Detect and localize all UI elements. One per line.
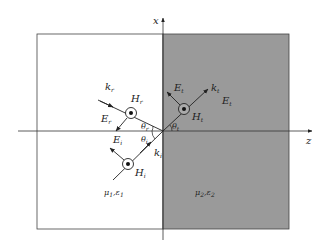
medium-2-region xyxy=(163,34,289,229)
medium-1-region xyxy=(37,34,163,229)
z-axis-label: z xyxy=(305,135,312,146)
x-axis-label: x xyxy=(153,15,159,26)
wave-interface-diagram: x z kr Hr Er θr Ei θi ki Hi Et kt Et Ht … xyxy=(0,0,325,252)
